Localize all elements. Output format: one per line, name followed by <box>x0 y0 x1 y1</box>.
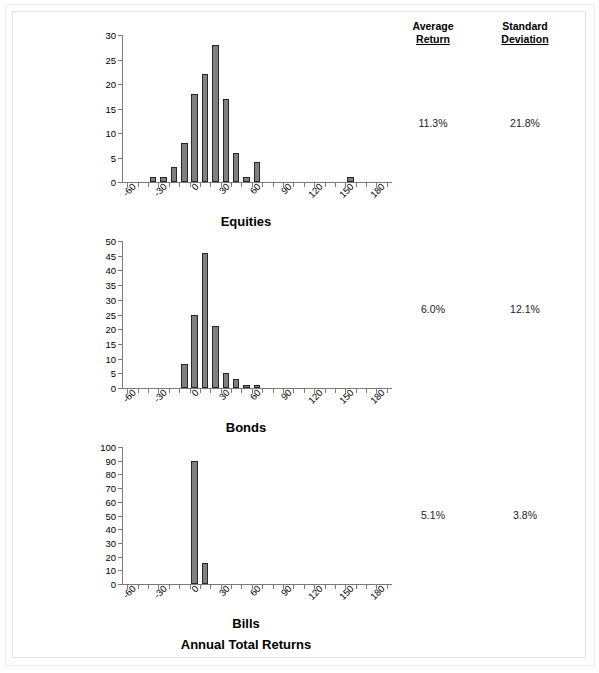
x-tick <box>231 585 232 589</box>
x-tick <box>148 585 149 589</box>
x-tick <box>231 389 232 393</box>
x-tick <box>366 585 367 589</box>
histogram-bar <box>233 379 239 388</box>
bars-bills <box>122 447 392 585</box>
y-tick-label: 100 <box>100 442 116 453</box>
plot-area-bonds: 05101520253035404550 -60-300306090120150… <box>122 241 392 389</box>
x-tick <box>179 585 180 589</box>
stats-row-bonds: 6.0% 12.1% <box>388 303 578 317</box>
histogram-bar <box>254 162 260 182</box>
x-tick <box>262 389 263 393</box>
x-tick <box>356 183 357 187</box>
x-tick-label: -30 <box>152 387 169 404</box>
chart-title-equities: Equities <box>96 214 396 229</box>
x-tick <box>210 585 211 589</box>
x-tick-label: 60 <box>247 181 262 196</box>
y-tick-label: 70 <box>105 483 116 494</box>
x-tick <box>262 585 263 589</box>
x-tick <box>138 389 139 393</box>
y-tick-label: 0 <box>111 579 116 590</box>
x-tick <box>304 183 305 187</box>
x-tick <box>231 183 232 187</box>
x-tick <box>335 585 336 589</box>
standard-deviation-header: Standard Deviation <box>480 20 570 45</box>
histogram-bar <box>223 99 229 182</box>
chart-title-bills: Bills <box>96 616 396 631</box>
histogram-bar <box>191 94 197 182</box>
histogram-bar <box>191 461 197 584</box>
x-tick <box>387 183 388 187</box>
x-tick <box>148 183 149 187</box>
x-tick-label: 180 <box>368 583 387 602</box>
x-tick <box>241 389 242 393</box>
x-tick <box>366 183 367 187</box>
y-tick-label: 5 <box>111 152 116 163</box>
y-tick-label: 0 <box>111 383 116 394</box>
average-return-header-line1: Average <box>412 20 453 32</box>
y-tick-label: 40 <box>105 265 116 276</box>
equities-average-return: 11.3% <box>388 117 478 129</box>
x-tick <box>200 585 201 589</box>
y-tick-label: 5 <box>111 368 116 379</box>
histogram-bar <box>181 364 187 388</box>
stats-row-equities: 11.3% 21.8% <box>388 117 578 131</box>
x-tick <box>273 183 274 187</box>
x-tick-label: -60 <box>120 387 137 404</box>
x-tick <box>293 183 294 187</box>
y-tick-label: 80 <box>105 469 116 480</box>
x-tick <box>293 389 294 393</box>
plot-area-bills: 0102030405060708090100 -60-3003060901201… <box>122 447 392 585</box>
x-tick <box>179 389 180 393</box>
x-tick <box>262 183 263 187</box>
y-tick-label: 50 <box>105 510 116 521</box>
x-tick <box>210 389 211 393</box>
y-tick-label: 40 <box>105 524 116 535</box>
x-tick <box>210 183 211 187</box>
x-tick <box>325 183 326 187</box>
histogram-equities: 051015202530 -60-300306090120150180 <box>96 30 396 230</box>
histogram-bonds: 05101520253035404550 -60-300306090120150… <box>96 236 396 436</box>
histogram-bar <box>233 153 239 182</box>
histogram-bar <box>243 177 249 182</box>
histogram-bar <box>202 563 208 584</box>
bonds-average-return: 6.0% <box>388 303 478 315</box>
y-tick-label: 90 <box>105 455 116 466</box>
y-tick-label: 15 <box>105 103 116 114</box>
y-tick-label: 30 <box>105 537 116 548</box>
x-tick <box>179 183 180 187</box>
x-tick-label: 150 <box>337 583 356 602</box>
equities-standard-deviation: 21.8% <box>480 117 570 129</box>
stats-column-headers: Average Return Standard Deviation <box>388 20 578 54</box>
x-tick-label: -60 <box>120 583 137 600</box>
y-tick-label: 30 <box>105 294 116 305</box>
y-tick-label: 10 <box>105 565 116 576</box>
x-tick <box>138 183 139 187</box>
y-tick-label: 45 <box>105 250 116 261</box>
histogram-bar <box>243 385 249 388</box>
x-tick-label: 150 <box>337 387 356 406</box>
x-tick-label: 180 <box>368 387 387 406</box>
x-tick <box>273 585 274 589</box>
x-tick <box>335 183 336 187</box>
figure-page: Average Return Standard Deviation 11.3% … <box>0 0 599 673</box>
x-tick <box>148 389 149 393</box>
x-tick <box>325 585 326 589</box>
y-tick-label: 20 <box>105 551 116 562</box>
x-tick <box>325 389 326 393</box>
chart-title-bonds: Bonds <box>96 420 396 435</box>
x-tick-label: 90 <box>278 583 293 598</box>
x-tick <box>387 585 388 589</box>
histogram-bar <box>212 45 218 182</box>
x-tick <box>241 585 242 589</box>
histogram-bar <box>202 253 208 388</box>
bills-average-return: 5.1% <box>388 509 478 521</box>
bars-equities <box>122 35 392 183</box>
y-tick-label: 10 <box>105 128 116 139</box>
average-return-header: Average Return <box>388 20 478 45</box>
x-tick <box>304 389 305 393</box>
y-tick-label: 25 <box>105 54 116 65</box>
x-tick <box>366 389 367 393</box>
histogram-bar <box>191 315 197 389</box>
x-tick-label: 30 <box>216 387 231 402</box>
y-tick-label: 50 <box>105 236 116 247</box>
